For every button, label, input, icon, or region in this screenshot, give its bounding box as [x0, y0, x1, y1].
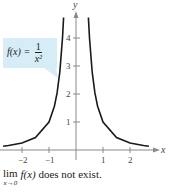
limit-caption: lim x→0 f(x) does not exist.	[3, 168, 102, 187]
x-tick-label: −2	[18, 155, 28, 165]
curve-left-branch	[3, 18, 64, 147]
limit-operator: lim x→0	[3, 168, 18, 187]
function-label: f(x) = 1 x²	[7, 41, 42, 64]
callout-pointer	[44, 68, 58, 78]
curve-right-branch	[88, 18, 148, 147]
limit-function: f(x)	[20, 168, 35, 180]
fraction-denominator: x²	[35, 53, 42, 64]
fraction: 1 x²	[35, 41, 42, 64]
x-axis-arrow-icon	[153, 148, 160, 153]
x-tick-label: 1	[101, 155, 106, 165]
y-tick-label: 4	[66, 33, 71, 43]
y-tick-label: 1	[66, 117, 71, 127]
limit-subscript: x→0	[3, 179, 18, 187]
x-axis-label: x	[160, 144, 166, 155]
x-tick-label: −1	[45, 155, 55, 165]
limit-text: lim	[3, 167, 18, 179]
y-axis-label: y	[72, 0, 78, 10]
chart-canvas: −2 −1 1 2 1 2 3 4 x y	[0, 0, 169, 196]
y-tick-label: 3	[66, 61, 71, 71]
x-tick-label: 2	[128, 155, 133, 165]
fraction-numerator: 1	[35, 41, 42, 53]
limit-statement: does not exist.	[36, 168, 102, 180]
y-tick-label: 2	[66, 89, 71, 99]
function-lhs: f(x) =	[7, 46, 30, 57]
y-axis-arrow-icon	[74, 11, 79, 18]
